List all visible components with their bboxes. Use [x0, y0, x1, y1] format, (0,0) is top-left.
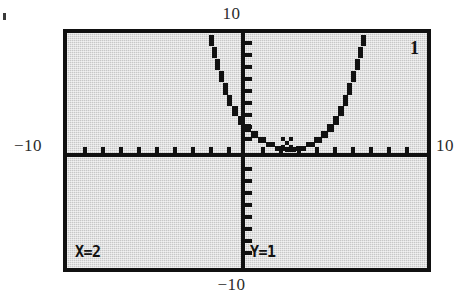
- graph-plot: [67, 33, 427, 268]
- trace-x-readout: X=2: [75, 245, 101, 260]
- window-label-bottom: −10: [0, 275, 463, 295]
- window-label-right: 10: [436, 136, 463, 156]
- trace-y-readout: Y=1: [250, 245, 276, 260]
- parabola-curve: [209, 35, 366, 152]
- window-label-top: 10: [0, 4, 463, 24]
- window-label-left: −10: [14, 136, 66, 156]
- screen-viewport: 1 X=2 Y=1: [67, 33, 427, 268]
- function-index-label: 1: [410, 39, 419, 57]
- calculator-screen: 1 X=2 Y=1: [63, 29, 431, 272]
- calculator-graph-figure: 10 −10 −10 10: [0, 0, 463, 303]
